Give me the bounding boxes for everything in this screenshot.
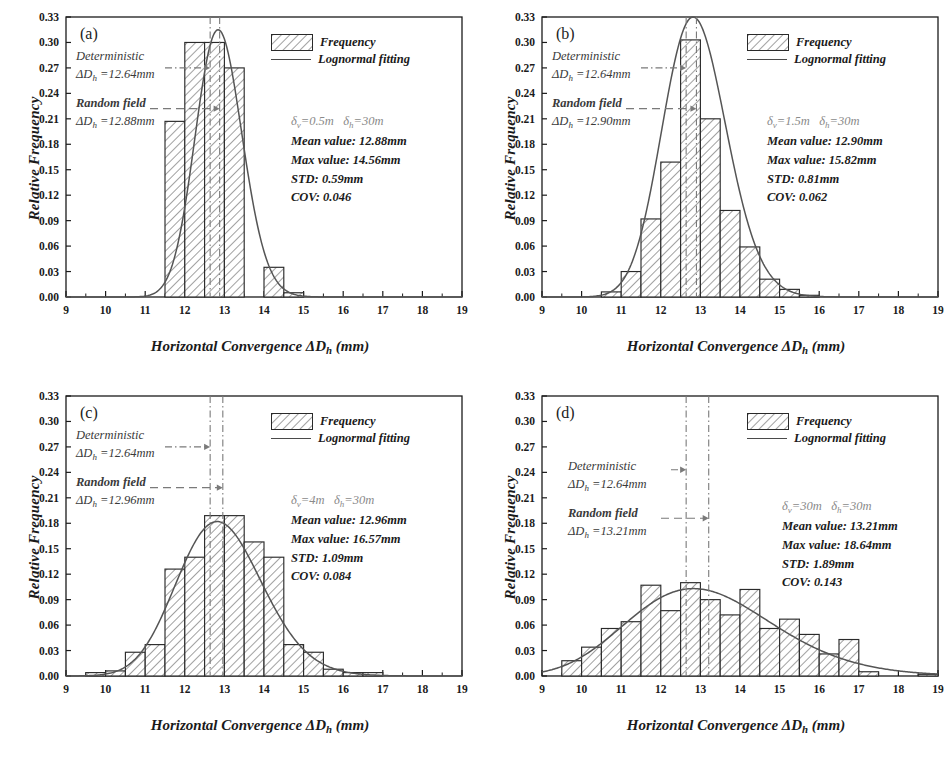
- legend: FrequencyLognormal fitting: [271, 34, 410, 68]
- stat-max: Max value: 14.56mm: [291, 151, 407, 170]
- panel-c: 0.000.030.060.090.120.150.180.210.240.27…: [0, 379, 476, 758]
- svg-text:0.00: 0.00: [39, 670, 59, 682]
- svg-text:15: 15: [774, 683, 786, 695]
- legend: FrequencyLognormal fitting: [747, 413, 886, 447]
- legend-frequency-label: Frequency: [796, 414, 852, 429]
- svg-text:18: 18: [893, 304, 905, 316]
- correlation-lengths: δv=1.5m δh=30m: [767, 114, 860, 128]
- legend: FrequencyLognormal fitting: [271, 413, 410, 447]
- panel-label: (b): [556, 25, 575, 43]
- histogram-bar: [720, 210, 740, 297]
- random-field-arrowhead: [703, 515, 709, 521]
- legend-fitting-line: [271, 59, 311, 60]
- svg-text:18: 18: [417, 304, 429, 316]
- legend-frequency-swatch: [747, 413, 789, 430]
- statistics-block: δv=4m δh=30mMean value: 12.96mmMax value…: [291, 491, 407, 586]
- stat-cov: COV: 0.084: [291, 567, 407, 586]
- svg-text:10: 10: [100, 304, 112, 316]
- deterministic-label: Deterministic: [76, 426, 155, 444]
- deterministic-value: ΔDh =12.64mm: [552, 65, 631, 85]
- svg-text:15: 15: [298, 304, 310, 316]
- svg-text:12: 12: [179, 683, 191, 695]
- svg-text:13: 13: [219, 304, 231, 316]
- random-field-label: Random field: [552, 94, 631, 112]
- histogram-bar: [244, 542, 264, 676]
- statistics-block: δv=1.5m δh=30mMean value: 12.90mmMax val…: [767, 112, 883, 207]
- stat-mean: Mean value: 12.90mm: [767, 132, 883, 151]
- deterministic-label: Deterministic: [76, 47, 155, 65]
- histogram-bar: [621, 622, 641, 676]
- legend-fitting-line: [271, 438, 311, 439]
- svg-text:11: 11: [616, 304, 627, 316]
- legend-fitting-label: Lognormal fitting: [794, 431, 886, 446]
- correlation-lengths: δv=0.5m δh=30m: [291, 114, 384, 128]
- svg-text:10: 10: [576, 683, 588, 695]
- y-axis-title: Relative Frequency: [502, 29, 519, 289]
- legend-frequency-label: Frequency: [320, 35, 376, 50]
- random-field-arrowhead: [217, 484, 223, 490]
- correlation-lengths: δv=30m δh=30m: [782, 499, 871, 513]
- svg-text:13: 13: [695, 683, 707, 695]
- histogram-bar: [185, 42, 205, 297]
- svg-text:11: 11: [140, 304, 151, 316]
- stat-max: Max value: 16.57mm: [291, 530, 407, 549]
- svg-text:19: 19: [456, 683, 468, 695]
- random-field-label: Random field: [76, 473, 155, 491]
- svg-text:14: 14: [258, 304, 270, 316]
- histogram-bar: [700, 600, 720, 676]
- svg-text:12: 12: [179, 304, 191, 316]
- svg-text:17: 17: [853, 683, 865, 695]
- histogram-bar: [760, 628, 780, 676]
- legend-frequency-swatch: [271, 34, 313, 51]
- stat-max: Max value: 18.64mm: [782, 536, 898, 555]
- svg-text:17: 17: [377, 683, 389, 695]
- histogram-bar: [641, 219, 661, 297]
- histogram-bar: [165, 121, 185, 297]
- svg-text:14: 14: [734, 304, 746, 316]
- legend-frequency-label: Frequency: [320, 414, 376, 429]
- histogram-bar: [799, 634, 819, 676]
- svg-text:9: 9: [63, 304, 69, 316]
- svg-text:0.00: 0.00: [515, 670, 535, 682]
- histogram-bar: [264, 557, 284, 676]
- y-axis-title: Relative Frequency: [26, 29, 43, 289]
- histogram-bar: [740, 589, 760, 676]
- stat-std: STD: 0.81mm: [767, 170, 883, 189]
- svg-text:16: 16: [337, 683, 349, 695]
- svg-text:12: 12: [655, 304, 667, 316]
- stat-mean: Mean value: 13.21mm: [782, 517, 898, 536]
- histogram-bar: [145, 645, 165, 676]
- panel-b: 0.000.030.060.090.120.150.180.210.240.27…: [476, 0, 952, 379]
- legend-frequency-label: Frequency: [796, 35, 852, 50]
- svg-text:0.33: 0.33: [515, 11, 535, 23]
- panel-d: 0.000.030.060.090.120.150.180.210.240.27…: [476, 379, 952, 758]
- legend: FrequencyLognormal fitting: [747, 34, 886, 68]
- stat-cov: COV: 0.143: [782, 573, 898, 592]
- histogram-bar: [681, 40, 701, 297]
- histogram-bar: [720, 615, 740, 676]
- histogram-bar: [224, 68, 244, 297]
- deterministic-value: ΔDh =12.64mm: [76, 65, 155, 85]
- legend-fitting-label: Lognormal fitting: [318, 431, 410, 446]
- statistics-block: δv=30m δh=30mMean value: 13.21mmMax valu…: [782, 497, 898, 592]
- legend-fitting-line: [747, 438, 787, 439]
- svg-text:19: 19: [932, 683, 944, 695]
- svg-text:17: 17: [377, 304, 389, 316]
- guide-annotations: DeterministicΔDh =12.64mmRandom fieldΔDh…: [568, 457, 647, 541]
- histogram-bar: [661, 611, 681, 676]
- stat-mean: Mean value: 12.96mm: [291, 511, 407, 530]
- svg-text:18: 18: [893, 683, 905, 695]
- histogram-bar: [839, 640, 859, 676]
- legend-frequency-swatch: [747, 34, 789, 51]
- figure-histograms-lognormal: 0.000.030.060.090.120.150.180.210.240.27…: [0, 0, 952, 758]
- deterministic-arrowhead: [204, 444, 210, 450]
- stat-cov: COV: 0.046: [291, 188, 407, 207]
- svg-text:0.33: 0.33: [39, 390, 59, 402]
- svg-text:16: 16: [813, 304, 825, 316]
- histogram-bar: [621, 272, 641, 297]
- histogram-bar: [224, 516, 244, 676]
- random-field-value: ΔDh =12.96mm: [76, 491, 155, 511]
- deterministic-label: Deterministic: [568, 457, 647, 475]
- guide-annotations: DeterministicΔDh =12.64mmRandom fieldΔDh…: [76, 47, 155, 131]
- y-axis-title: Relative Frequency: [502, 408, 519, 668]
